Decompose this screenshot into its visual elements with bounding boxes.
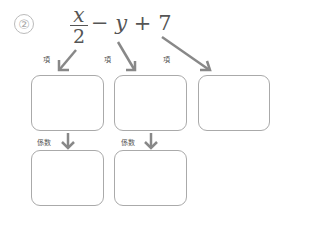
term-answer-box-1[interactable] (31, 75, 104, 131)
term-label-2: 項 (104, 54, 111, 64)
coefficient-answer-box-2[interactable] (114, 150, 187, 206)
arrow-coef-1-icon (62, 133, 74, 148)
term-label-1: 項 (43, 54, 50, 64)
coefficient-answer-box-1[interactable] (31, 150, 104, 206)
coefficient-label-1: 係数 (37, 137, 51, 147)
term-answer-box-3[interactable] (198, 75, 270, 131)
arrow-term-1-icon (59, 50, 76, 70)
term-answer-box-2[interactable] (114, 75, 187, 131)
arrow-coef-2-icon (145, 133, 157, 148)
term-label-3: 項 (163, 54, 170, 64)
coefficient-label-2: 係数 (121, 137, 135, 147)
arrow-term-2-icon (118, 42, 135, 70)
